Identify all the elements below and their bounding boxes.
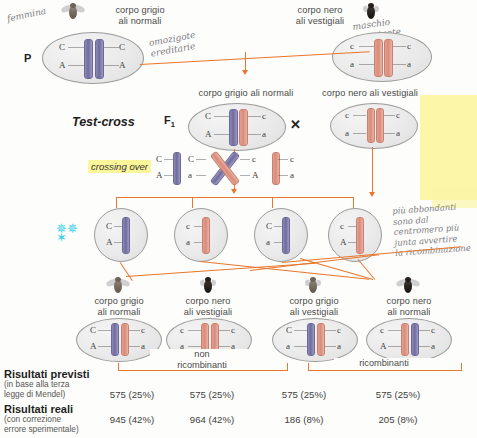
cell-offspring-3: C a c a bbox=[272, 318, 358, 362]
non-ricombinanti-line1: non bbox=[150, 349, 254, 360]
gamete-4-bottom: A bbox=[340, 237, 347, 247]
chromatid-4: c a bbox=[272, 152, 304, 184]
chromatid-1: C A bbox=[156, 152, 186, 184]
chromatid-3-top: c bbox=[252, 154, 256, 164]
offspring-4-chr-2 bbox=[411, 323, 419, 356]
p-female-pheno-2: ali normali bbox=[92, 16, 188, 27]
non-ricombinanti-line2: ricombinanti bbox=[150, 360, 254, 371]
gamete-2-bottom: a bbox=[186, 237, 190, 247]
allele-f1-c: c bbox=[262, 111, 266, 121]
label-p-female-phenotype: corpo grigio ali normali bbox=[92, 5, 188, 26]
value-reali-3: 186 (8%) bbox=[268, 414, 340, 425]
offspring-1-pheno-2: ali normali bbox=[74, 307, 164, 318]
arrow-to-tcp-gamete bbox=[369, 192, 375, 197]
chromatid-1-top: C bbox=[156, 154, 162, 164]
gamete-3-bottom: a bbox=[266, 237, 270, 247]
allele-p-female-C-left: C bbox=[59, 42, 65, 52]
offspring-4-a: a bbox=[431, 341, 435, 351]
gamete-3-top: C bbox=[266, 221, 272, 231]
allele-tcp-c-right: c bbox=[396, 110, 400, 120]
allele-p-male-c-left: c bbox=[350, 41, 354, 51]
offspring-3-pheno-1: corpo grigio bbox=[268, 296, 360, 307]
cell-testcross-parent: c a c a bbox=[330, 103, 418, 149]
allele-p-female-C-right: C bbox=[119, 42, 125, 52]
arrow-to-f1 bbox=[242, 70, 248, 75]
gamete-1-top: C bbox=[106, 221, 112, 231]
gamete-4-chromosome bbox=[356, 217, 364, 254]
fly-offspring-2 bbox=[195, 276, 221, 296]
handwriting-femmina: femmina bbox=[6, 6, 47, 25]
cell-p-male: c a c a bbox=[332, 32, 432, 82]
gamete-bus bbox=[116, 197, 354, 198]
offspring-3-a: a bbox=[286, 341, 290, 351]
p-male-pheno-1: corpo nero bbox=[275, 5, 365, 16]
chromosome-f1-2 bbox=[239, 109, 248, 146]
results-row-previsti: Risultati previsti (in base alla terza l… bbox=[4, 368, 90, 399]
ricombinanti-text: ricombinanti bbox=[359, 358, 409, 368]
offspring-4-pheno-1: corpo nero bbox=[364, 296, 454, 307]
chromatid-1-bar bbox=[173, 152, 181, 185]
offspring-1-C: C bbox=[90, 325, 96, 335]
arrow-to-gamete-bus bbox=[231, 189, 237, 194]
testcross-parent-pheno: corpo nero ali vestigiali bbox=[322, 88, 418, 98]
chromatid-4-bar bbox=[272, 152, 280, 185]
f1-letter: F bbox=[164, 114, 171, 126]
crossing-over-label: crossing over bbox=[88, 160, 151, 173]
chromosome-tcp-1 bbox=[367, 108, 375, 143]
offspring-4-c: c bbox=[380, 325, 384, 335]
value-previsti-3: 575 (25%) bbox=[268, 389, 340, 400]
value-previsti-1: 575 (25%) bbox=[96, 389, 168, 400]
offspring-1-chr-2 bbox=[121, 323, 129, 356]
offspring-3-a2: a bbox=[337, 341, 341, 351]
offspring-3-C: C bbox=[286, 325, 292, 335]
genetics-testcross-figure: femmina omozigote ereditarie maschio omo… bbox=[0, 0, 477, 438]
value-reali-1: 945 (42%) bbox=[96, 414, 168, 425]
gamete-1-bottom: A bbox=[106, 237, 113, 247]
chromosome-p-male-1 bbox=[374, 39, 383, 77]
testcross-label: Test-cross bbox=[72, 115, 135, 129]
gamete-2: c a bbox=[174, 208, 228, 262]
label-offspring-2: corpo nero ali vestigiali bbox=[163, 296, 253, 317]
gamete-drop-4 bbox=[353, 197, 354, 208]
chromatid-2-bottom: a bbox=[188, 170, 192, 180]
gamete-3-chromosome bbox=[282, 217, 290, 254]
connector-f1-drop bbox=[245, 52, 246, 72]
allele-tcp-a-right: a bbox=[396, 128, 400, 138]
label-ricombinanti: ricombinanti bbox=[334, 358, 434, 369]
offspring-2-pheno-2: ali vestigiali bbox=[163, 307, 253, 318]
connector-tcp-to-gamete bbox=[372, 147, 373, 195]
gamete-4-top: c bbox=[340, 221, 344, 231]
results-previsti-sub2: legge di Mendel) bbox=[4, 390, 90, 400]
offspring-4-pheno-2: ali normali bbox=[364, 307, 454, 318]
offspring-3-chr-2 bbox=[317, 323, 325, 356]
offspring-1-c: c bbox=[141, 325, 145, 335]
generation-label-p: P bbox=[24, 52, 31, 64]
offspring-4-c2: c bbox=[431, 325, 435, 335]
f1-pheno: corpo grigio ali normali bbox=[199, 88, 294, 98]
allele-f1-A: A bbox=[205, 129, 212, 139]
allele-p-male-a-left: a bbox=[350, 59, 354, 69]
cell-offspring-4: c A c a bbox=[366, 318, 452, 362]
chromosome-f1-1 bbox=[229, 109, 238, 146]
p-male-pheno-2: ali vestigiali bbox=[275, 16, 365, 27]
gamete-1-chromosome bbox=[122, 217, 130, 254]
fly-offspring-3 bbox=[300, 276, 326, 296]
fly-p-male bbox=[358, 2, 384, 22]
chromatid-3: c A bbox=[238, 152, 272, 184]
chromatid-1-bottom: A bbox=[156, 170, 163, 180]
value-previsti-4: 575 (25%) bbox=[362, 389, 434, 400]
label-testcross-parent-phenotype: corpo nero ali vestigiali bbox=[300, 88, 440, 99]
allele-tcp-a-left: a bbox=[345, 128, 349, 138]
fly-offspring-4 bbox=[395, 276, 421, 296]
value-reali-4: 205 (8%) bbox=[362, 414, 434, 425]
allele-p-male-a-right: a bbox=[407, 59, 411, 69]
results-row-reali: Risultati reali (con correzione errore s… bbox=[4, 403, 79, 434]
chromosome-p-male-2 bbox=[384, 39, 393, 77]
chromosome-p-female-2 bbox=[95, 39, 104, 79]
results-reali-sub2: errore sperimentale) bbox=[4, 425, 79, 435]
gamete-drop-1 bbox=[116, 197, 117, 208]
label-offspring-3: corpo grigio ali vestigiali bbox=[268, 296, 360, 317]
f1-subscript: 1 bbox=[171, 120, 175, 129]
cross-symbol: ✕ bbox=[290, 117, 301, 132]
offspring-4-chr-1 bbox=[401, 323, 409, 356]
